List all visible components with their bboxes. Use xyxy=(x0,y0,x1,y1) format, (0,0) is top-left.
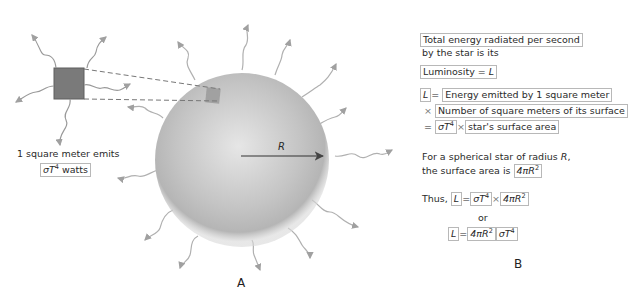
panel-label-a: A xyxy=(237,276,245,290)
star-sphere xyxy=(155,73,329,247)
luminosity-definition: Luminosity = L xyxy=(420,65,497,79)
radius-label: R xyxy=(278,141,285,153)
thus-equation: Thus, L=σT4×4πR2 xyxy=(422,192,529,206)
intro-line-1: Total energy radiated per second xyxy=(420,33,583,47)
sphere-text-line-2: the surface area is 4πR2 xyxy=(422,164,542,178)
equation-line-number: × Number of square meters of its surface xyxy=(424,104,628,118)
equation-line-sigma: = σT4×star's surface area xyxy=(424,120,559,134)
equation-line-energy: L= Energy emitted by 1 square meter xyxy=(420,88,612,102)
sphere-text-line-1: For a spherical star of radius R, xyxy=(422,151,570,163)
final-equation: L=4πR2σT4 xyxy=(448,227,518,241)
or-text: or xyxy=(478,212,488,224)
panel-label-b: B xyxy=(514,257,522,271)
square-meter-watts: σT4 watts xyxy=(40,163,91,177)
watts-box: σT4 watts xyxy=(40,163,91,177)
square-meter-caption: 1 square meter emits xyxy=(17,148,119,160)
intro-line-2: by the star is its xyxy=(422,47,499,59)
star-diagram xyxy=(0,0,410,291)
square-meter-block xyxy=(54,68,84,99)
